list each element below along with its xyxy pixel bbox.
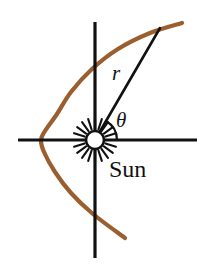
angle-label: θ: [116, 110, 126, 131]
orbit-diagram-figure: r θ Sun: [0, 0, 213, 270]
orbit-curve: [41, 23, 182, 238]
sun-label: Sun: [109, 157, 146, 181]
diagram-canvas: [0, 0, 213, 270]
sun-icon: [86, 131, 104, 149]
radius-label: r: [112, 63, 120, 84]
